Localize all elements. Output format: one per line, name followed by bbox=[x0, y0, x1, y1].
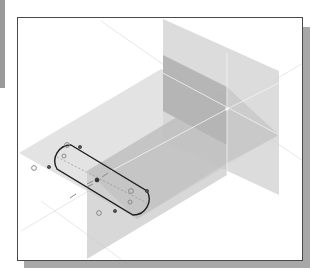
tangent-point bbox=[78, 145, 81, 148]
tangent-point bbox=[113, 209, 116, 212]
tangent-point bbox=[145, 189, 148, 192]
horizontal-constraint-icon bbox=[70, 194, 76, 198]
viewport-shadow-bottom bbox=[24, 261, 310, 268]
tangent-point bbox=[47, 165, 50, 168]
side-toolbar-strip bbox=[0, 0, 5, 88]
viewport-shadow-right bbox=[303, 27, 310, 268]
center-point bbox=[95, 178, 99, 182]
tangent-constraint-icon bbox=[32, 166, 37, 171]
origin-point[interactable] bbox=[225, 107, 229, 111]
graphics-viewport[interactable] bbox=[17, 17, 303, 261]
